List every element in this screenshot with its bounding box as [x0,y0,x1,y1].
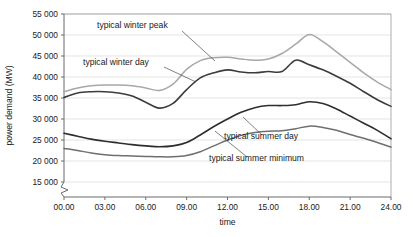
annotation-leader-typical-winter-peak [182,31,215,61]
annotation-label-typical-winter-peak: typical winter peak [97,20,168,30]
x-tick-label: 00.00 [54,202,75,212]
x-axis-title: time [219,217,235,227]
y-axis-title: power demand (MW) [4,65,14,145]
y-tick-label: 30 000 [32,114,58,124]
plot-frame [64,14,391,197]
power-demand-chart: 15 00020 00025 00030 00035 00040 00045 0… [0,0,413,237]
x-tick-label: 21.00 [340,202,361,212]
y-tick-label: 25 000 [32,135,58,145]
annotation-label-typical-winter-day: typical winter day [83,57,150,67]
x-tick-label: 15.00 [258,202,279,212]
y-tick-label: 45 000 [32,51,58,61]
x-tick-label: 03.00 [94,202,115,212]
y-tick-label: 55 000 [32,9,58,19]
y-axis-break-icon [61,182,68,197]
x-tick-label: 24.00 [381,202,402,212]
annotation-label-typical-summer-day: typical summer day [224,131,299,141]
x-tick-label: 09.00 [176,202,197,212]
chart-canvas: 15 00020 00025 00030 00035 00040 00045 0… [0,0,413,237]
y-tick-label: 20 000 [32,156,58,166]
annotation-leader-typical-winter-day [164,67,196,82]
y-tick-label: 40 000 [32,72,58,82]
y-tick-label: 35 000 [32,93,58,103]
x-tick-label: 06.00 [135,202,156,212]
series-line-typical-winter-day [64,60,391,108]
x-tick-label: 18.00 [299,202,320,212]
y-tick-label: 15 000 [32,177,58,187]
y-tick-label: 50 000 [32,30,58,40]
x-tick-label: 12.00 [217,202,238,212]
annotation-label-typical-summer-minimum: typical summer minimum [209,153,304,163]
